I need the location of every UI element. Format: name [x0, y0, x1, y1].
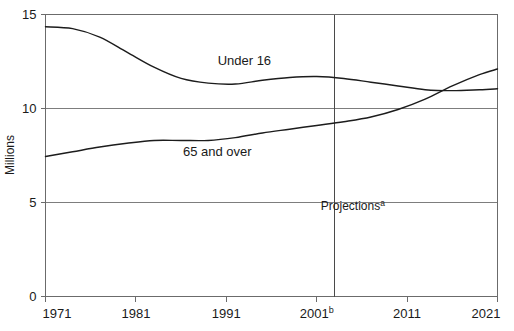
x-tick-label-text: 2021 [472, 306, 501, 321]
x-tick-label-superscript: b [329, 305, 334, 315]
series-label-65-and-over: 65 and over [183, 144, 252, 159]
projections-annotation-group: Projectionsa [321, 198, 385, 213]
population-age-groups-line-chart: Millions 1971198119912001b20112021 05101… [0, 0, 514, 331]
x-tick-label-text: 1981 [121, 306, 150, 321]
x-tick-label-text: 2001 [300, 306, 329, 321]
projections-annotation-superscript: a [380, 198, 385, 208]
series-label-under-16-group: Under 16 [218, 53, 271, 68]
x-tick-label-2001: 2001b [300, 305, 334, 321]
y-axis-labels-group: 051015 [22, 7, 36, 304]
x-tick-label-2021: 2021 [472, 306, 501, 321]
x-tick-label-text: 1971 [43, 306, 72, 321]
x-tick-label-1971: 1971 [43, 306, 72, 321]
y-tick-label-0: 0 [29, 289, 36, 304]
x-tick-label-text: 2011 [393, 306, 421, 321]
x-axis-labels-group: 1971198119912001b20112021 [43, 305, 501, 321]
x-tick-label-2011: 2011 [393, 306, 421, 321]
projections-annotation: Projectionsa [321, 198, 385, 213]
x-axis-ticks-group [46, 297, 498, 302]
series-line-65-and-over [46, 69, 498, 156]
x-tick-label-1981: 1981 [121, 306, 150, 321]
series-label-65-and-over-group: 65 and over [183, 144, 252, 159]
x-tick-label-1991: 1991 [212, 306, 241, 321]
series-line-under-16 [46, 27, 498, 91]
plot-frame-group [46, 15, 498, 297]
x-tick-label-text: 1991 [212, 306, 241, 321]
y-tick-label-5: 5 [29, 195, 36, 210]
series-paths-group [46, 27, 498, 157]
y-axis-title-group: Millions [3, 135, 17, 175]
y-tick-label-15: 15 [22, 7, 36, 22]
gridlines-group [46, 15, 498, 203]
y-axis-ticks-group [41, 15, 46, 297]
y-axis-title: Millions [3, 135, 17, 175]
chart-container: Millions 1971198119912001b20112021 05101… [0, 0, 514, 331]
projections-annotation-text: Projections [321, 199, 380, 213]
series-label-under-16: Under 16 [218, 53, 271, 68]
y-tick-label-10: 10 [22, 101, 36, 116]
